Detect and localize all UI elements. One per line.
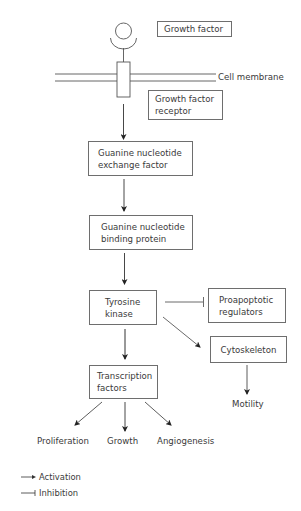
motility-label: Motility [232, 399, 264, 410]
receptor-label-line1: Growth factor [155, 93, 214, 105]
inhibition-bar-icon [20, 489, 37, 497]
tyrosine-kinase-box: Tyrosine kinase [89, 290, 157, 325]
cell-membrane-label: Cell membrane [218, 72, 284, 83]
gef-label-line2: exchange factor [98, 159, 168, 171]
proapoptotic-regulators-box: Proapoptotic regulators [208, 288, 286, 323]
growth-factor-box: Growth factor [157, 21, 232, 37]
proliferation-label: Proliferation [37, 436, 89, 447]
gbp-box: Guanine nucleotide binding protein [89, 215, 193, 250]
tyrosine-kinase-label-line2: kinase [105, 308, 133, 320]
angiogenesis-label: Angiogenesis [157, 436, 214, 447]
cytoskeleton-box: Cytoskeleton [210, 336, 287, 363]
growth-factor-receptor-box: Growth factor receptor [148, 90, 223, 120]
growth-label: Growth [107, 436, 138, 447]
legend-inhibition: Inhibition [20, 487, 78, 498]
gbp-label-line2: binding protein [101, 233, 166, 245]
pathway-diagram: Growth factor Cell membrane Growth facto… [0, 0, 301, 511]
receptor-label-line2: receptor [155, 105, 191, 117]
cell-membrane-icon [55, 74, 216, 81]
gef-box: Guanine nucleotide exchange factor [88, 141, 193, 176]
gef-label-line1: Guanine nucleotide [98, 147, 182, 159]
receptor-icon [117, 62, 130, 97]
tyrosine-kinase-label-line1: Tyrosine [105, 296, 140, 308]
transcription-factors-label-line1: Transcription [97, 370, 152, 382]
proapoptotic-label-line1: Proapoptotic [219, 294, 273, 306]
growth-factor-label: Growth factor [164, 23, 223, 35]
transcription-factors-label-line2: factors [97, 382, 127, 394]
activation-arrow-icon [20, 473, 37, 481]
gbp-label-line1: Guanine nucleotide [101, 221, 185, 233]
transcription-factors-box: Transcription factors [89, 365, 158, 399]
legend-activation-label: Activation [39, 472, 81, 482]
legend-activation: Activation [20, 471, 81, 482]
legend-inhibition-label: Inhibition [39, 488, 78, 498]
proapoptotic-label-line2: regulators [219, 306, 263, 318]
growth-factor-ligand-icon [111, 23, 137, 62]
cytoskeleton-label: Cytoskeleton [221, 344, 277, 356]
